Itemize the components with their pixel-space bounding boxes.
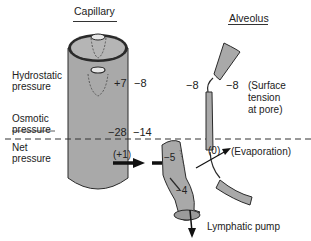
alveolus-right-value: −8 [226, 80, 239, 91]
hydrostatic-label-2: pressure [12, 81, 51, 92]
osmotic-label-2: pressure [12, 124, 51, 135]
capillary-vessel [68, 34, 128, 189]
alveolus-wall [206, 43, 252, 205]
capillary-hydrostatic-value: +7 [114, 78, 127, 89]
capillary-osmotic-value: −28 [108, 127, 127, 138]
alveolus-net-value: (0) [208, 145, 220, 156]
lymphatic-upper-value: −5 [164, 152, 175, 163]
evaporation-label: (Evaporation) [231, 146, 291, 157]
surface-tension-label-3: at pore) [248, 104, 282, 115]
surface-tension-label-2: tension [248, 92, 280, 103]
osmotic-label-1: Osmotic [12, 113, 49, 124]
net-capillary-value: (+1) [113, 149, 131, 160]
net-label-2: pressure [12, 153, 51, 164]
capillary-title: Capillary [74, 5, 115, 17]
alveolus-left-value: −8 [186, 80, 199, 91]
lymphatic-pump-label: Lymphatic pump [207, 221, 280, 232]
surface-tension-label-1: (Surface [248, 80, 286, 91]
interstitial-osmotic-value: −14 [133, 127, 152, 138]
interstitial-hydrostatic-value: −8 [134, 78, 147, 89]
lymphatic-lower-value: −4 [176, 185, 187, 196]
hydrostatic-label-1: Hydrostatic [12, 70, 62, 81]
net-label-1: Net [12, 142, 28, 153]
alveolus-title: Alveolus [229, 12, 269, 24]
